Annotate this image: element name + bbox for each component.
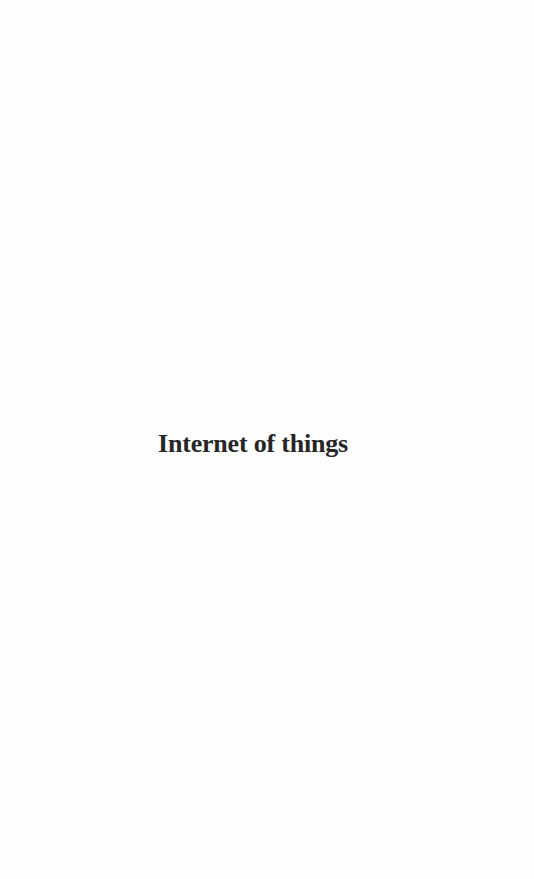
book-page: Internet of things <box>0 0 534 879</box>
half-title: Internet of things <box>158 428 348 460</box>
